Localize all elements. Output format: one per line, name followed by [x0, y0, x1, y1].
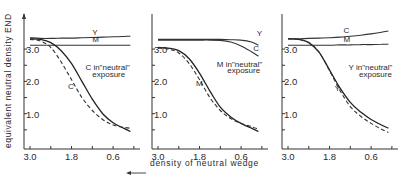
x-tick-label: 3.0	[23, 151, 36, 162]
series-line	[30, 36, 130, 38]
annotation-label: C	[253, 44, 259, 53]
y-tick-label: 2.0	[26, 76, 39, 87]
y-tick-label: 2.0	[154, 76, 167, 87]
x-tick-label: 3.0	[281, 151, 294, 162]
x-axis-label-group: density of neutral wedge	[126, 158, 259, 175]
y-tick-label: 1.0	[26, 109, 39, 120]
annotation-label: Y	[257, 29, 263, 38]
chart-panel-3: 3.02.01.03.01.80.6CMY in"neutral"exposur…	[281, 14, 398, 162]
annotation-label: exposure	[92, 70, 125, 79]
series-line	[30, 39, 130, 128]
y-axis-label: equivalent neutral density END	[3, 13, 13, 148]
series-line	[288, 31, 388, 39]
chart-panel-1: 3.02.01.03.01.80.6YMC in"neutral"exposur…	[22, 13, 140, 162]
chart-panel-2: 3.02.01.03.01.80.6YCM in"neutral"exposur…	[151, 14, 268, 162]
y-axis-arrow-icon	[22, 13, 26, 19]
left-arrowhead-icon	[126, 171, 131, 175]
annotation-label: Y	[335, 84, 341, 93]
series-line	[30, 39, 130, 132]
figure: 3.02.01.03.01.80.6YMC in"neutral"exposur…	[0, 0, 410, 183]
x-tick-label: 0.6	[106, 151, 119, 162]
annotation-label: C	[68, 82, 74, 91]
annotation-label: exposure	[227, 66, 260, 75]
x-tick-label: 1.8	[65, 151, 78, 162]
series-line	[158, 40, 258, 56]
y-tick-label: 1.0	[284, 109, 297, 120]
y-tick-label: 2.0	[284, 76, 297, 87]
annotation-label: exposure	[359, 70, 392, 79]
annotation-label: M	[343, 35, 350, 44]
chart-canvas: 3.02.01.03.01.80.6YMC in"neutral"exposur…	[0, 0, 410, 183]
x-axis-label: density of neutral wedge	[150, 158, 259, 168]
y-tick-label: 3.0	[154, 44, 167, 55]
x-tick-label: 0.6	[364, 151, 377, 162]
series-line	[288, 44, 388, 45]
annotation-label: M	[92, 35, 99, 44]
chart-panels: 3.02.01.03.01.80.6YMC in"neutral"exposur…	[22, 13, 398, 162]
annotation-label: M	[196, 79, 203, 88]
annotation-label: C	[343, 26, 349, 35]
x-tick-label: 1.8	[323, 151, 336, 162]
y-tick-label: 1.0	[154, 109, 167, 120]
